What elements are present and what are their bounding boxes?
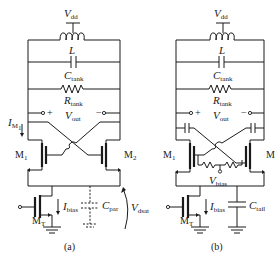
vout-label-a: Vout bbox=[65, 109, 81, 123]
figure-canvas: Vdd L Ctank Rtank + Vout − bbox=[0, 0, 275, 260]
resistor-icon-rtank-a bbox=[28, 85, 120, 93]
vout-minus-terminal-a bbox=[102, 111, 105, 114]
bias-resistor-network-b bbox=[198, 155, 242, 173]
capacitor-icon-cpar-a bbox=[81, 186, 99, 227]
mt-label-a: MT bbox=[32, 215, 46, 228]
im1-arrowhead-a bbox=[20, 133, 24, 137]
ctank-label-a: Ctank bbox=[64, 69, 84, 83]
m1-label-a: M1 bbox=[15, 149, 28, 162]
caption-b: (b) bbox=[211, 241, 223, 253]
ibias-label-a: Ibias bbox=[62, 200, 78, 214]
ground-icon-ctail-b bbox=[228, 227, 246, 233]
m1-label-b: M1 bbox=[163, 149, 176, 162]
coupling-capacitor-right-b bbox=[204, 123, 264, 155]
transistor-m2-b bbox=[236, 140, 265, 174]
resistor-icon-rtank-b bbox=[176, 85, 264, 93]
vdd-label-a: Vdd bbox=[64, 7, 78, 21]
im1-label-a: IM1 bbox=[7, 116, 22, 132]
transistor-m1-b bbox=[175, 140, 204, 174]
inductor-icon-a bbox=[28, 33, 120, 40]
vdsat-arrowhead-a bbox=[121, 187, 126, 193]
ctank-label-b: Ctank bbox=[213, 69, 233, 83]
minus-label-a: − bbox=[96, 107, 102, 118]
ibias-arrowhead-a bbox=[56, 211, 60, 215]
coupling-capacitor-left-b bbox=[176, 123, 236, 163]
rtank-label-a: Rtank bbox=[63, 94, 83, 108]
vdsat-arrow-a bbox=[124, 191, 128, 229]
vdsat-label-a: Vdsat bbox=[131, 201, 149, 215]
inductor-icon-b bbox=[176, 33, 264, 40]
panel-a: Vdd L Ctank Rtank + Vout − bbox=[7, 7, 149, 253]
ground-icon-mt-b bbox=[191, 227, 209, 233]
mt-label-b: MT bbox=[180, 215, 194, 228]
vout-minus-terminal-b bbox=[248, 111, 251, 114]
ground-icon-mt-a bbox=[43, 227, 61, 233]
ibias-arrowhead-b bbox=[204, 211, 208, 215]
inductor-label-b: L bbox=[218, 44, 225, 56]
capacitor-icon-ctail-b bbox=[228, 186, 246, 227]
ctail-label-b: Ctail bbox=[249, 199, 265, 213]
vout-plus-terminal-a bbox=[41, 111, 44, 114]
plus-label-a: + bbox=[47, 107, 53, 118]
minus-label-b: − bbox=[241, 107, 247, 118]
inductor-label-a: L bbox=[68, 44, 75, 56]
transistor-m2-a bbox=[88, 140, 121, 172]
plus-label-b: + bbox=[195, 107, 201, 118]
panel-b: Vdd L Ctank Rtank + Vout − bbox=[163, 7, 275, 253]
rtank-label-b: Rtank bbox=[212, 94, 232, 108]
cpar-label-a: Cpar bbox=[102, 199, 119, 213]
m2-label-a: M2 bbox=[124, 149, 137, 162]
capacitor-icon-ctank-b bbox=[176, 56, 264, 68]
vout-plus-terminal-b bbox=[189, 111, 192, 114]
capacitor-icon-ctank-a bbox=[28, 56, 120, 68]
caption-a: (a) bbox=[64, 241, 75, 253]
m2-label-b: M2 bbox=[266, 149, 275, 162]
ibias-label-b: Ibias bbox=[209, 200, 225, 214]
vdd-label-b: Vdd bbox=[214, 7, 228, 21]
transistor-m1-a bbox=[27, 140, 62, 172]
vout-label-b: Vout bbox=[213, 109, 229, 123]
